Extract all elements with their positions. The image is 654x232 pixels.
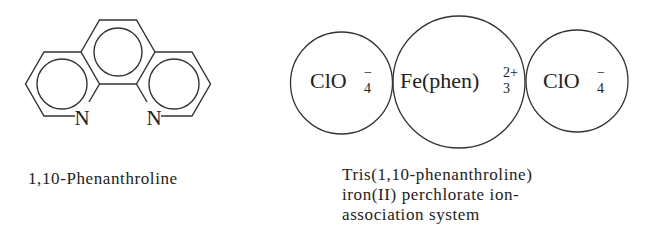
iron-complex-formula: Fe(phen)	[400, 68, 479, 93]
caption-line-1: Tris(1,10-phenanthroline)	[342, 165, 533, 185]
left-perchlorate-subscript: 4	[364, 81, 371, 96]
ion-association-caption: Tris(1,10-phenanthroline) iron(II) perch…	[342, 165, 533, 225]
left-perchlorate-formula: ClO	[310, 68, 347, 93]
left-perchlorate-superscript: −	[364, 65, 372, 80]
right-perchlorate-base: ClO	[543, 68, 580, 93]
caption-line-3: association system	[342, 205, 533, 225]
nitrogen-label-left: N	[74, 106, 89, 130]
right-perchlorate-superscript: −	[597, 65, 605, 80]
right-perchlorate-subscript: 4	[597, 81, 604, 96]
left-perchlorate-base: ClO	[310, 68, 347, 93]
iron-complex-superscript: 2+	[503, 65, 518, 80]
chemistry-figure: N N ClO − 4 Fe(phen) 2+ 3 ClO − 4	[0, 0, 654, 232]
middle-ring-aromatic-circle	[94, 28, 142, 76]
iron-complex-subscript: 3	[503, 81, 510, 96]
phenanthroline-structure	[26, 20, 211, 116]
iron-complex-base: Fe(phen)	[400, 68, 479, 93]
middle-ring-bonds	[81, 20, 155, 52]
nitrogen-label-right: N	[146, 106, 161, 130]
left-ring-aromatic-circle	[37, 59, 87, 109]
phenanthroline-caption: 1,10-Phenanthroline	[28, 169, 178, 189]
right-ring-aromatic-circle	[149, 59, 199, 109]
caption-line-2: iron(II) perchlorate ion-	[342, 185, 533, 205]
right-perchlorate-formula: ClO	[543, 68, 580, 93]
